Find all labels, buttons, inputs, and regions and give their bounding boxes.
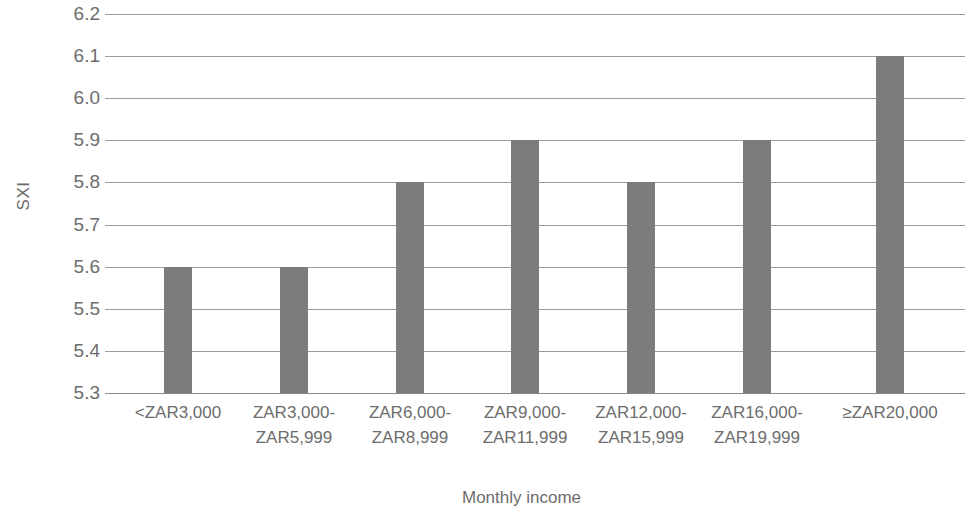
x-axis-tick-label: ZAR6,000- ZAR8,999	[345, 400, 475, 450]
y-axis-tick-label: 5.7	[48, 215, 100, 234]
x-axis-title-text: Monthly income	[462, 488, 581, 507]
x-axis-tick-labels: <ZAR3,000ZAR3,000- ZAR5,999ZAR6,000- ZAR…	[105, 400, 965, 470]
x-axis-tick-label: <ZAR3,000	[113, 400, 243, 425]
bar[interactable]	[876, 56, 904, 393]
x-axis-tick-label: ≥ZAR20,000	[825, 400, 955, 425]
x-axis-baseline	[105, 393, 965, 394]
y-axis-tick-label: 5.9	[48, 130, 100, 149]
bar[interactable]	[627, 182, 655, 393]
x-axis-tick-label: ZAR12,000- ZAR15,999	[576, 400, 706, 450]
x-axis-title: Monthly income	[0, 488, 973, 508]
bar[interactable]	[511, 140, 539, 393]
bar-chart-figure: SXI 6.26.16.05.95.85.75.65.55.45.3 <ZAR3…	[0, 0, 973, 521]
y-axis-spine	[105, 14, 106, 393]
bar[interactable]	[743, 140, 771, 393]
gridline	[105, 98, 965, 99]
x-axis-tick-label: ZAR3,000- ZAR5,999	[229, 400, 359, 450]
y-axis-tick-labels: 6.26.16.05.95.85.75.65.55.45.3	[48, 0, 100, 400]
bar[interactable]	[164, 267, 192, 393]
y-axis-tick-label: 5.8	[48, 172, 100, 191]
gridline	[105, 14, 965, 15]
y-axis-title: SXI	[14, 176, 34, 216]
y-axis-tick-label: 6.0	[48, 88, 100, 107]
bar[interactable]	[280, 267, 308, 393]
y-axis-tick-label: 5.4	[48, 341, 100, 360]
y-axis-tick-label: 5.6	[48, 257, 100, 276]
y-axis-tick-label: 6.1	[48, 46, 100, 65]
plot-area	[105, 14, 965, 393]
y-axis-tick-label: 5.5	[48, 299, 100, 318]
x-axis-tick-label: ZAR16,000- ZAR19,999	[692, 400, 822, 450]
y-axis-tick-label: 5.3	[48, 383, 100, 402]
x-axis-tick-label: ZAR9,000- ZAR11,999	[460, 400, 590, 450]
bar[interactable]	[396, 182, 424, 393]
gridline	[105, 56, 965, 57]
y-axis-tick-label: 6.2	[48, 4, 100, 23]
